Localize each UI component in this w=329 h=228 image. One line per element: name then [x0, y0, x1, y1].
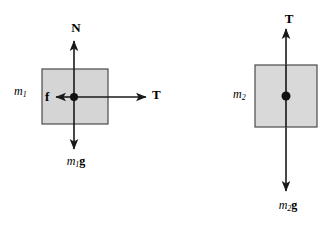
block-1-mass-symbol: m [14, 84, 23, 98]
block-2-mass-subscript: 2 [242, 93, 246, 102]
block-1-center-dot [70, 93, 78, 101]
block-2-center-dot [282, 92, 291, 101]
block-1-group [42, 41, 146, 149]
weight-1-mass-symbol: m [67, 154, 76, 168]
free-body-diagram: N f T m1 m1g T m2 m2g [0, 0, 329, 228]
normal-force-label: N [71, 21, 80, 34]
weight-2-mass-symbol: m [279, 198, 288, 212]
block-1-mass-label: m1 [14, 85, 27, 97]
block-1-mass-subscript: 1 [23, 90, 27, 99]
diagram-canvas [0, 0, 329, 228]
weight-force-1-label: m1g [67, 155, 86, 167]
weight-force-2-label: m2g [279, 199, 298, 211]
tension-force-1-label: T [152, 88, 161, 101]
weight-2-gravity-symbol: g [291, 198, 297, 212]
block-2-mass-symbol: m [233, 87, 242, 101]
weight-2-subscript: 2 [287, 204, 291, 213]
weight-1-subscript: 1 [75, 160, 79, 169]
block-2-mass-label: m2 [233, 88, 246, 100]
weight-1-gravity-symbol: g [79, 154, 85, 168]
block-2-group [255, 29, 317, 191]
tension-force-2-label: T [285, 12, 294, 25]
friction-force-label: f [45, 90, 49, 103]
